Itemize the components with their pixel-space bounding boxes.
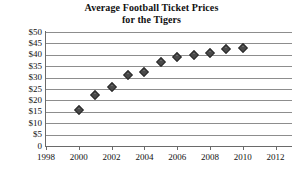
gridline: [46, 112, 292, 113]
data-point-marker: [90, 90, 100, 100]
y-axis-tick-label: $40: [0, 50, 42, 59]
y-axis-tick-label: $5: [0, 130, 42, 139]
x-axis-tick-mark: [177, 146, 178, 150]
y-axis-tick-label: $20: [0, 96, 42, 105]
y-axis-tick-label: 0: [0, 142, 42, 151]
gridline: [46, 100, 292, 101]
plot-area: [46, 32, 292, 146]
gridline: [46, 66, 292, 67]
data-point-marker: [205, 48, 215, 58]
data-point-marker: [123, 70, 133, 80]
gridline: [46, 78, 292, 79]
data-point-marker: [238, 43, 248, 53]
data-point-marker: [107, 82, 117, 92]
x-axis-tick-label: 2012: [256, 153, 296, 162]
y-axis-tick-label: $30: [0, 73, 42, 82]
x-axis-tick-mark: [243, 146, 244, 150]
gridline: [46, 43, 292, 44]
chart-title: Average Football Ticket Prices for the T…: [0, 2, 303, 25]
data-point-marker: [172, 52, 182, 62]
scatter-chart: Average Football Ticket Prices for the T…: [0, 0, 303, 180]
y-axis-tick-label: $25: [0, 85, 42, 94]
gridline: [46, 123, 292, 124]
y-axis-tick-label: $50: [0, 28, 42, 37]
y-axis-tick-label: $15: [0, 107, 42, 116]
data-point-marker: [189, 50, 199, 60]
gridline: [46, 32, 292, 33]
data-point-marker: [74, 105, 84, 115]
x-axis-tick-mark: [79, 146, 80, 150]
y-axis-tick-label: $45: [0, 39, 42, 48]
data-point-marker: [221, 44, 231, 54]
x-axis-tick-mark: [112, 146, 113, 150]
chart-title-line-1: Average Football Ticket Prices: [85, 2, 219, 13]
x-axis-tick-mark: [144, 146, 145, 150]
gridline: [46, 89, 292, 90]
chart-title-line-2: for the Tigers: [0, 14, 303, 26]
x-axis-tick-mark: [210, 146, 211, 150]
data-point-marker: [139, 67, 149, 77]
x-axis-line: [45, 146, 292, 147]
y-axis-tick-label: $10: [0, 119, 42, 128]
gridline: [46, 135, 292, 136]
y-axis-tick-label: $35: [0, 62, 42, 71]
data-point-marker: [156, 57, 166, 67]
gridline: [46, 55, 292, 56]
x-axis-tick-mark: [276, 146, 277, 150]
x-axis-tick-mark: [46, 146, 47, 150]
